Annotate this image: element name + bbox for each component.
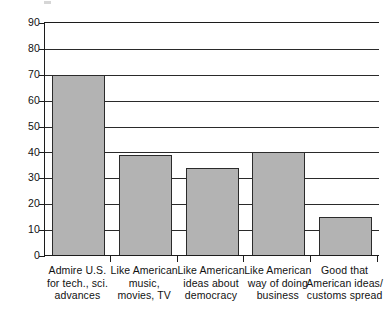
category-label-good-ideas-spread: Good that American ideas/ customs spread (293, 264, 391, 302)
gridline-80 (45, 49, 379, 50)
y-tick-80 (39, 49, 45, 50)
y-tick-40 (39, 152, 45, 153)
bar-admire-us-tech (52, 75, 105, 256)
y-axis-label-80: 80 (0, 43, 40, 54)
x-tick-1 (110, 256, 111, 262)
y-axis-label-90: 90 (0, 17, 40, 28)
y-tick-70 (39, 75, 45, 76)
x-tick-2 (177, 256, 178, 262)
y-tick-30 (39, 178, 45, 179)
category-label-line-1: Good that (293, 264, 391, 277)
category-label-line-3: customs spread (293, 289, 391, 302)
plot-area (44, 22, 379, 256)
y-tick-20 (39, 204, 45, 205)
x-tick-5 (377, 256, 378, 262)
bar-good-ideas-spread (319, 217, 372, 256)
x-tick-3 (243, 256, 244, 262)
y-axis-label-0: 0 (0, 250, 40, 261)
y-tick-10 (39, 230, 45, 231)
x-axis-line (45, 255, 379, 256)
bar-chart-figure: 90 80 70 60 50 40 30 20 10 0 (0, 0, 391, 315)
bar-like-american-democracy (186, 168, 239, 256)
category-label-line-2: American ideas/ (293, 277, 391, 290)
y-axis-label-70: 70 (0, 69, 40, 80)
y-axis-label-50: 50 (0, 121, 40, 132)
y-tick-0 (39, 256, 45, 257)
y-tick-90 (39, 23, 45, 24)
y-tick-50 (39, 127, 45, 128)
y-axis-label-10: 10 (0, 224, 40, 235)
y-axis-label-20: 20 (0, 198, 40, 209)
y-axis-label-60: 60 (0, 95, 40, 106)
scan-artifact (44, 1, 51, 4)
bar-like-american-business (252, 152, 305, 256)
y-axis-label-40: 40 (0, 147, 40, 158)
y-axis-label-30: 30 (0, 172, 40, 183)
y-tick-60 (39, 101, 45, 102)
bar-like-american-music (119, 155, 172, 256)
x-tick-4 (310, 256, 311, 262)
